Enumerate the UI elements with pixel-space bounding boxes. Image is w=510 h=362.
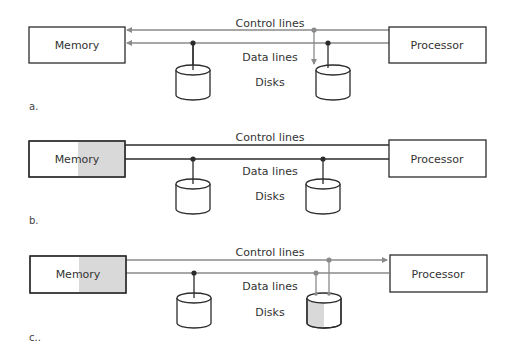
disk-icon	[177, 270, 211, 328]
disk-icon-shaded	[307, 257, 341, 328]
panel-c: Memory Processor Control lines Data line…	[29, 246, 487, 343]
memory-label: Memory	[55, 39, 100, 52]
processor-label: Processor	[411, 153, 464, 166]
data-lines-label: Data lines	[242, 165, 298, 178]
memory-label: Memory	[55, 153, 100, 166]
processor-label: Processor	[411, 39, 464, 52]
disks-label: Disks	[255, 306, 285, 319]
disk-icon	[306, 156, 340, 214]
control-lines-label: Control lines	[236, 17, 305, 30]
data-lines-label: Data lines	[242, 51, 298, 64]
panel-label: c..	[29, 332, 41, 343]
disk-icon	[311, 27, 350, 100]
processor-label: Processor	[412, 268, 465, 281]
memory-label: Memory	[56, 268, 101, 281]
disks-label: Disks	[255, 76, 285, 89]
panel-label: b.	[29, 215, 39, 226]
disk-io-diagram: Memory Processor Control lines Data line…	[0, 0, 510, 362]
disk-icon	[176, 156, 210, 214]
disks-label: Disks	[255, 190, 285, 203]
panel-label: a.	[29, 101, 38, 112]
data-lines-label: Data lines	[242, 280, 298, 293]
control-lines-label: Control lines	[236, 131, 305, 144]
disk-icon	[176, 40, 210, 100]
panel-b: Memory Processor Control lines Data line…	[29, 131, 486, 226]
panel-a: Memory Processor Control lines Data line…	[29, 17, 486, 112]
control-lines-label: Control lines	[236, 246, 305, 259]
